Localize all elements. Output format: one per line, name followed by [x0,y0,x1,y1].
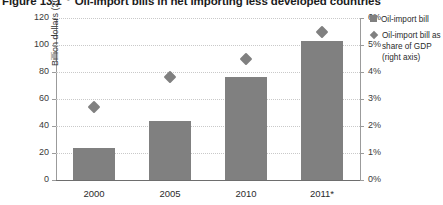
right-axis-tick-label: 4% [368,67,381,76]
left-axis-tick-label: 60 [39,94,49,103]
left-axis-tick [52,153,56,154]
left-axis-tick [52,99,56,100]
bar-2011 [301,41,343,180]
bar-2005 [149,121,191,180]
legend-item-oil-import-bill: Oil-import bill [370,14,443,25]
legend-item-share-of-gdp: Oil-import bill as share of GDP (right a… [370,30,443,63]
left-axis-tick [52,126,56,127]
gridline [56,18,360,19]
right-axis-tick [360,126,364,127]
right-axis-tick-label: 1% [368,148,381,157]
left-axis-tick [52,180,56,181]
right-axis-tick [360,180,364,181]
figure-title-text: Oil-import bills in net importing less d… [75,0,381,7]
bar-2000 [73,148,115,180]
x-axis-label-2000: 2000 [83,188,104,199]
left-axis-title: Billion dollars (2010) [50,0,60,66]
left-axis-tick [52,18,56,19]
right-axis-tick-label: 0% [368,175,381,184]
right-axis-tick-label: 2% [368,121,381,130]
left-axis-tick-label: 40 [39,121,49,130]
square-swatch-icon [370,15,377,22]
plot-area: Billion dollars (2010) 0204060801001200%… [56,18,360,180]
marker-2000 [88,101,101,114]
right-axis-tick [360,45,364,46]
legend-item-label: Oil-import bill [381,14,443,25]
right-axis-tick-label: 3% [368,94,381,103]
marker-2010 [240,52,253,65]
left-axis-tick-label: 120 [34,13,49,22]
x-axis-label-2005: 2005 [159,188,180,199]
right-axis-tick [360,99,364,100]
diamond-swatch-icon [370,31,378,39]
left-axis-tick-label: 20 [39,148,49,157]
right-axis-tick [360,153,364,154]
left-axis-tick [52,72,56,73]
right-axis-tick [360,18,364,19]
bottom-axis-line [56,180,360,181]
figure-title-bullet-icon: • [67,0,70,5]
bar-2010 [225,77,267,180]
left-axis-tick-label: 80 [39,67,49,76]
legend-item-label: Oil-import bill as share of GDP (right a… [382,30,443,63]
right-axis-tick [360,72,364,73]
chart-legend: Oil-import bill Oil-import bill as share… [370,14,443,68]
x-axis-label-2011: 2011* [310,188,334,199]
x-axis-label-2010: 2010 [235,188,256,199]
left-axis-tick [52,45,56,46]
marker-2011 [316,25,329,38]
left-axis-tick-label: 0 [44,175,49,184]
left-axis-tick-label: 100 [34,40,49,49]
